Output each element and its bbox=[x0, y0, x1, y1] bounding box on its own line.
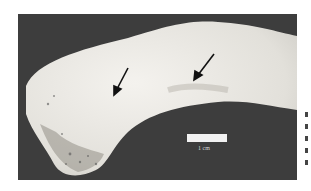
caption-edge-mark bbox=[305, 112, 308, 117]
caption-edge-mark bbox=[305, 160, 308, 165]
bone-illustration bbox=[18, 14, 297, 180]
caption-edge-mark bbox=[305, 148, 308, 153]
specimen-photo: 1 cm bbox=[18, 14, 297, 180]
scale-label: 1 cm bbox=[198, 145, 210, 151]
scale-bar bbox=[187, 134, 227, 142]
caption-edge-mark bbox=[305, 136, 308, 141]
caption-edge-mark bbox=[305, 124, 308, 129]
